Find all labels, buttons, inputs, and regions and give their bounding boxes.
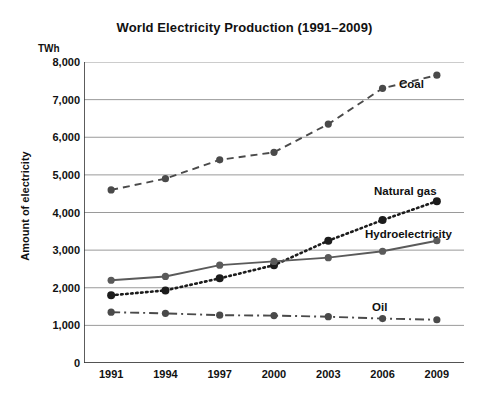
x-axis-tick-label: 1994 <box>135 368 195 380</box>
series-label-natural-gas: Natural gas <box>374 185 437 197</box>
data-point <box>216 312 223 319</box>
y-axis-tick-label: 8,000 <box>34 56 80 68</box>
data-point <box>379 248 386 255</box>
data-point <box>270 258 277 265</box>
plot-svg <box>84 62 464 363</box>
x-axis-tick-label: 2009 <box>407 368 467 380</box>
x-axis-tick-label: 1997 <box>190 368 250 380</box>
data-point <box>162 310 169 317</box>
series-line-natural-gas <box>111 201 437 295</box>
data-point <box>379 216 387 224</box>
y-axis-tick-label: 5,000 <box>34 169 80 181</box>
y-axis-tick-label: 6,000 <box>34 131 80 143</box>
data-point <box>216 274 224 282</box>
data-point <box>270 312 277 319</box>
x-axis-tick-label: 2003 <box>298 368 358 380</box>
data-point <box>216 262 223 269</box>
x-axis-tick-label: 2006 <box>353 368 413 380</box>
y-axis-tick-label: 2,000 <box>34 282 80 294</box>
y-axis-unit-label: TWh <box>38 43 60 54</box>
data-point <box>433 72 440 79</box>
data-point <box>162 273 169 280</box>
data-point <box>379 315 386 322</box>
data-point <box>325 313 332 320</box>
series-label-hydroelectricity: Hydroelectricity <box>365 228 452 240</box>
data-point <box>108 186 115 193</box>
data-point <box>325 120 332 127</box>
data-point <box>433 197 441 205</box>
y-axis-tick-label: 1,000 <box>34 319 80 331</box>
data-point <box>108 309 115 316</box>
x-axis-tick-label: 2000 <box>244 368 304 380</box>
y-axis-tick-label: 0 <box>34 357 80 369</box>
plot-area <box>84 62 464 363</box>
chart-title: World Electricity Production (1991–2009) <box>0 20 489 35</box>
x-axis-tick-label: 1991 <box>81 368 141 380</box>
y-axis-tick-label: 4,000 <box>34 207 80 219</box>
data-point <box>216 156 223 163</box>
data-point <box>324 237 332 245</box>
data-point <box>162 175 169 182</box>
y-axis-tick-label: 3,000 <box>34 244 80 256</box>
chart-container: World Electricity Production (1991–2009)… <box>0 0 489 412</box>
data-point <box>379 85 386 92</box>
series-label-coal: Coal <box>399 78 424 90</box>
y-axis-tick-label: 7,000 <box>34 94 80 106</box>
data-point <box>325 254 332 261</box>
data-point <box>108 277 115 284</box>
data-point <box>270 149 277 156</box>
data-point <box>107 291 115 299</box>
y-axis-tick-labels: 01,0002,0003,0004,0005,0006,0007,0008,00… <box>28 62 80 363</box>
data-point <box>161 286 169 294</box>
series-label-oil: Oil <box>372 301 387 313</box>
data-point <box>433 316 440 323</box>
series-line-coal <box>111 75 437 190</box>
